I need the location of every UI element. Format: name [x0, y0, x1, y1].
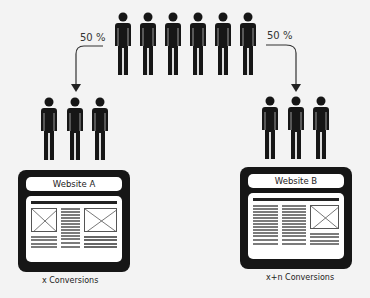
person-icon	[39, 97, 59, 160]
website-b-content	[248, 193, 344, 259]
ab-test-diagram: 50 % 50 % Website A	[0, 0, 370, 298]
person-icon	[260, 96, 280, 159]
website-b-title: Website B	[248, 174, 344, 188]
person-icon	[65, 97, 85, 160]
website-a-title: Website A	[26, 177, 122, 191]
arrow-left-icon	[76, 46, 103, 84]
website-b-result: x+n Conversions	[266, 273, 334, 282]
person-icon	[286, 96, 306, 159]
arrow-right-icon	[266, 45, 296, 84]
text-lines	[26, 196, 122, 262]
website-a-result: x Conversions	[42, 276, 98, 285]
text-lines	[248, 193, 344, 259]
website-b-mockup: Website B	[240, 167, 352, 269]
website-a-mockup: Website A	[18, 170, 130, 272]
person-icon	[90, 97, 110, 160]
person-icon	[311, 96, 331, 159]
website-a-content	[26, 196, 122, 262]
